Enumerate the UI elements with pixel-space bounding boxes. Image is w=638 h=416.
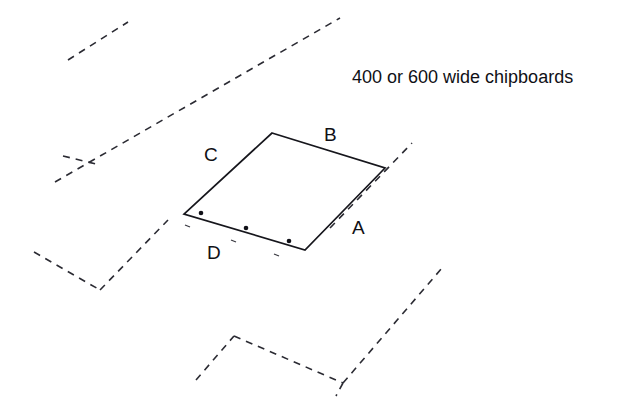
dashed-path-board-edge-bottom-right-tail xyxy=(336,383,343,396)
diagram-canvas: A B C D 400 or 600 wide chipboards xyxy=(0,0,638,416)
dashed-path-board-edge-lower-left-vertex xyxy=(100,220,168,290)
chipboard-width-caption: 400 or 600 wide chipboards xyxy=(352,67,573,87)
dashed-path-board-edge-branch-left xyxy=(63,156,96,164)
fixing-dot xyxy=(244,226,249,231)
edge-label-d: D xyxy=(207,242,221,263)
fixing-dot xyxy=(199,211,204,216)
edge-label-a: A xyxy=(352,217,365,238)
dashed-path-board-edge-main-diagonal xyxy=(55,18,340,182)
dashed-path-board-edge-bottom-shallow xyxy=(234,336,343,383)
dashed-path-board-edge-right-diagonal xyxy=(330,143,412,228)
fixing-ticks-group xyxy=(185,225,279,256)
chipboard-layout-svg: A B C D 400 or 600 wide chipboards xyxy=(0,0,638,416)
fixing-dots-group xyxy=(199,211,292,244)
fixing-dot xyxy=(287,239,292,244)
fixing-tick xyxy=(231,240,236,242)
dashed-path-board-edge-lower-left-branch xyxy=(34,252,100,290)
dashed-path-board-edge-bottom-left-run xyxy=(196,336,234,380)
fixing-tick xyxy=(185,225,190,227)
edge-label-b: B xyxy=(324,124,337,145)
fixing-tick xyxy=(274,254,279,256)
dashed-path-board-edge-bottom-right-diagonal xyxy=(343,268,442,383)
edge-label-c: C xyxy=(204,144,218,165)
dashed-path-board-edge-top-left-short xyxy=(68,22,128,60)
